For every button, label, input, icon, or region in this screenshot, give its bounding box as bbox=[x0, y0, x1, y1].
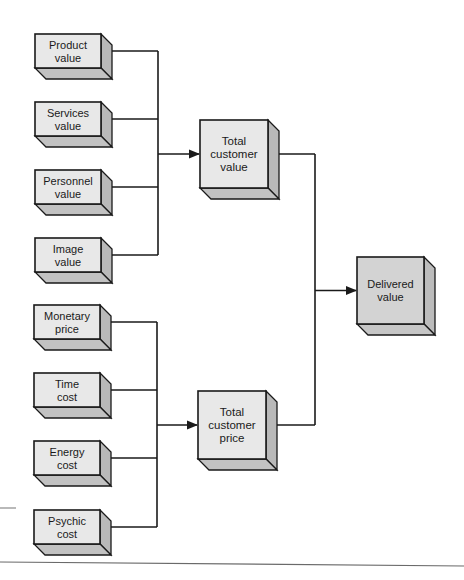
node-label-line: price bbox=[55, 323, 79, 335]
connector-total-customer-price bbox=[100, 322, 197, 527]
node-monetary-price: Monetaryprice bbox=[34, 305, 111, 350]
box-side-face bbox=[424, 257, 435, 335]
box-bottom-face bbox=[357, 324, 435, 335]
node-label-line: Psychic bbox=[48, 515, 86, 527]
node-label-line: value bbox=[55, 120, 81, 132]
node-label-line: value bbox=[55, 188, 81, 200]
box-bottom-face bbox=[34, 475, 111, 486]
node-label-line: customer bbox=[210, 148, 257, 160]
node-label-line: value bbox=[55, 256, 81, 268]
box-bottom-face bbox=[35, 68, 112, 79]
box-side-face bbox=[266, 391, 277, 470]
node-label: Timecost bbox=[55, 378, 79, 403]
node-label-line: cost bbox=[57, 528, 77, 540]
box-bottom-face bbox=[200, 188, 279, 199]
node-label-line: Monetary bbox=[44, 310, 90, 322]
node-label: Imagevalue bbox=[53, 243, 84, 268]
node-personnel-value: Personnelvalue bbox=[35, 170, 112, 215]
node-label-line: value bbox=[220, 161, 248, 173]
box-side-face bbox=[268, 120, 279, 199]
node-label-line: Total bbox=[222, 135, 246, 147]
node-psychic-cost: Psychiccost bbox=[34, 510, 111, 555]
box-bottom-face bbox=[35, 204, 112, 215]
node-label-line: Services bbox=[47, 107, 90, 119]
nodes: ProductvalueServicesvaluePersonnelvalueI… bbox=[34, 34, 435, 555]
node-total-customer-price: Totalcustomerprice bbox=[198, 391, 277, 470]
node-label-line: value bbox=[55, 52, 81, 64]
node-label-line: Energy bbox=[50, 446, 85, 458]
box-bottom-face bbox=[35, 272, 112, 283]
node-energy-cost: Energycost bbox=[34, 441, 111, 486]
box-bottom-face bbox=[198, 459, 277, 470]
node-total-customer-value: Totalcustomervalue bbox=[200, 120, 279, 199]
node-services-value: Servicesvalue bbox=[35, 102, 112, 147]
node-label-line: customer bbox=[208, 419, 255, 431]
node-label-line: Total bbox=[220, 406, 244, 418]
box-bottom-face bbox=[35, 136, 112, 147]
node-label-line: cost bbox=[57, 391, 77, 403]
node-label-line: Image bbox=[53, 243, 84, 255]
box-bottom-face bbox=[34, 407, 111, 418]
node-label-line: value bbox=[377, 291, 403, 303]
box-bottom-face bbox=[34, 339, 111, 350]
node-label-line: Product bbox=[49, 39, 87, 51]
node-label-line: Time bbox=[55, 378, 79, 390]
node-product-value: Productvalue bbox=[35, 34, 112, 79]
node-time-cost: Timecost bbox=[34, 373, 111, 418]
node-image-value: Imagevalue bbox=[35, 238, 112, 283]
node-label-line: Personnel bbox=[43, 175, 93, 187]
box-bottom-face bbox=[34, 544, 111, 555]
page-rule bbox=[0, 562, 464, 566]
node-label-line: Delivered bbox=[367, 278, 413, 290]
node-label-line: cost bbox=[57, 459, 77, 471]
node-delivered-value: Deliveredvalue bbox=[357, 257, 435, 335]
customer-delivered-value-diagram: ProductvalueServicesvaluePersonnelvalueI… bbox=[0, 0, 464, 580]
node-label-line: price bbox=[220, 432, 245, 444]
connector-total-customer-value bbox=[101, 51, 199, 255]
